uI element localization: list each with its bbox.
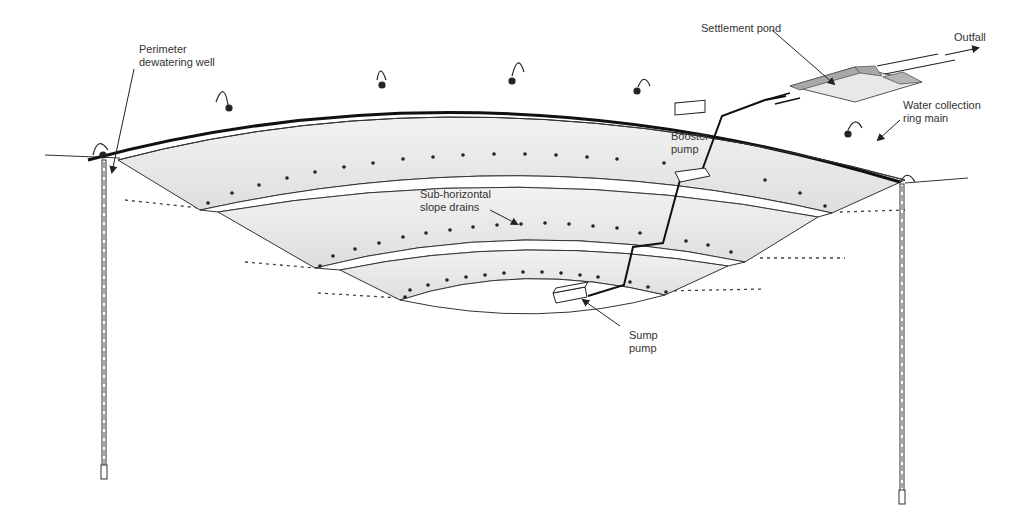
label-line: dewatering well [139,56,215,69]
outfall-pipe [877,48,978,74]
pit-dewatering-diagram [0,0,1031,526]
label-line: slope drains [420,201,491,214]
perimeter-dewatering-well-right [899,184,905,504]
label-line: ring main [903,112,981,125]
label-line: pump [671,143,709,156]
sump-pump-label: Sump pump [629,329,658,355]
label-line: pump [629,342,658,355]
outfall-label: Outfall [954,31,986,44]
label-line: Water collection [903,99,981,112]
label-line: Sub-horizontal [420,188,491,201]
label-line: Sump [629,329,658,342]
settlement-pond-label: Settlement pond [701,22,781,35]
perimeter-well-label: Perimeter dewatering well [139,43,215,69]
perimeter-dewatering-well-left [101,160,107,479]
label-line: Booster [671,130,709,143]
booster-pump-label: Booster pump [671,130,709,156]
ring-main-label: Water collection ring main [903,99,981,125]
label-line: Perimeter [139,43,215,56]
slope-drains-label: Sub-horizontal slope drains [420,188,491,214]
